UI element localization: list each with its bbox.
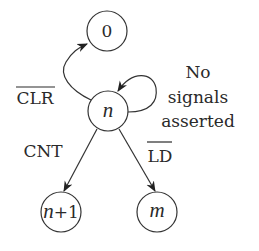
state-m: m bbox=[137, 192, 177, 232]
state-zero: 0 bbox=[87, 11, 127, 51]
transition-clr-edge bbox=[64, 44, 91, 100]
transition-ld-label: LD bbox=[147, 142, 172, 166]
svg-text:LD: LD bbox=[148, 146, 173, 166]
state-m-label: m bbox=[149, 198, 164, 222]
state-zero-label: 0 bbox=[102, 21, 113, 41]
svg-text:CLR: CLR bbox=[16, 88, 54, 108]
state-diagram: 0 n n+1 m CLR No signals asserted CNT LD bbox=[0, 0, 259, 251]
state-n-plus-1: n+1 bbox=[41, 192, 81, 232]
state-n-plus-1-label: n+1 bbox=[43, 199, 79, 223]
transition-cnt-edge bbox=[64, 129, 97, 191]
transition-self-loop-label: No signals asserted bbox=[161, 62, 235, 131]
transition-clr-label: CLR bbox=[16, 87, 55, 108]
svg-text:No: No bbox=[185, 62, 210, 82]
svg-text:CNT: CNT bbox=[23, 141, 63, 161]
svg-text:asserted: asserted bbox=[161, 111, 235, 131]
state-n: n bbox=[88, 91, 128, 131]
svg-text:signals: signals bbox=[168, 87, 228, 107]
state-n-label: n bbox=[103, 98, 114, 122]
transition-cnt-label: CNT bbox=[23, 141, 63, 161]
